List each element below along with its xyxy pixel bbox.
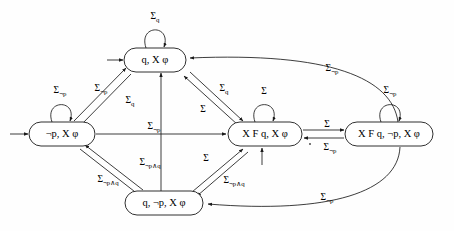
edge-qxphi-to-notpxphi [80, 74, 131, 126]
state-label-q-xphi: q, X φ [142, 54, 169, 65]
state-q-xphi[interactable]: q, X φ [124, 48, 186, 72]
state-xfq-notp-xphi[interactable]: X F q, ¬p, X φ [345, 122, 433, 146]
selfloop-label-notp-xphi: Σ¬p [54, 85, 67, 96]
edge-notpxphi-to-qxphi [74, 68, 126, 121]
edge-xfqxphi-to-qxphi [184, 76, 238, 125]
selfloop-label-q-xphi: Σq [151, 11, 161, 22]
edge-qxphi-to-xfqxphi [190, 72, 243, 121]
edge-label-notpxphi-to-qxphi: Σ¬p [95, 83, 108, 94]
scan-speck [309, 143, 311, 145]
state-label-notp-xphi: ¬p, X φ [46, 128, 79, 139]
edge-label-qxphi-to-xfqxphi: Σq [220, 83, 230, 94]
edge-notpxphi-to-qnotpxphi [80, 149, 139, 195]
edge-label-qnotpxphi-to-xfqxphi: Σ [203, 153, 209, 163]
selfloop-label-xfq-xphi: Σ [261, 86, 267, 96]
edge-label-notpxphi-to-xfqxphi: Σ¬p [148, 121, 161, 132]
edge-label-xfqnotpxphi-to-xfqxphi: Σ¬p [324, 142, 337, 153]
edge-label-xfqnotpxphi-to-qnotpxphi: Σ¬p [321, 192, 334, 203]
state-label-xfq-xphi: X F q, X φ [242, 128, 287, 139]
edge-label-notpxphi-to-qnotpxphi: Σ¬p∧q [97, 174, 119, 185]
state-label-q-notp-xphi: q, ¬p, X φ [142, 197, 185, 208]
edge-label-xfqnotpxphi-to-qxphi: Σ¬p [326, 63, 339, 74]
selfloop-q-xphi [145, 30, 165, 48]
selfloop-notp-xphi [51, 105, 71, 122]
edge-label-xfqxphi-to-qnotpxphi: Σ¬p∧q [223, 175, 245, 186]
edge-label-xfqxphi-to-qxphi: Σ [200, 104, 206, 114]
automaton-canvas: q, X φ ¬p, X φ X F q, X φ X F q, ¬p, X φ… [0, 0, 454, 231]
state-label-xfq-notp-xphi: X F q, ¬p, X φ [358, 128, 420, 139]
selfloop-xfq-xphi [254, 105, 274, 122]
selfloop-label-xfq-notp-xphi: Σ¬p [384, 85, 397, 96]
automaton-diagram: q, X φ ¬p, X φ X F q, X φ X F q, ¬p, X φ… [0, 0, 454, 231]
state-xfq-xphi[interactable]: X F q, X φ [228, 122, 302, 146]
edge-label-qxphi-to-notpxphi: Σq [126, 95, 136, 106]
edge-xfqnotp-to-qnotpxphi [208, 147, 400, 206]
state-q-notp-xphi[interactable]: q, ¬p, X φ [125, 191, 203, 215]
edge-label-qnotpxphi-to-notpxphi: Σ¬p∧q [139, 157, 161, 168]
state-notp-xphi[interactable]: ¬p, X φ [29, 122, 95, 146]
edge-label-xfqxphi-to-xfqnotpxphi: Σ [324, 119, 330, 129]
